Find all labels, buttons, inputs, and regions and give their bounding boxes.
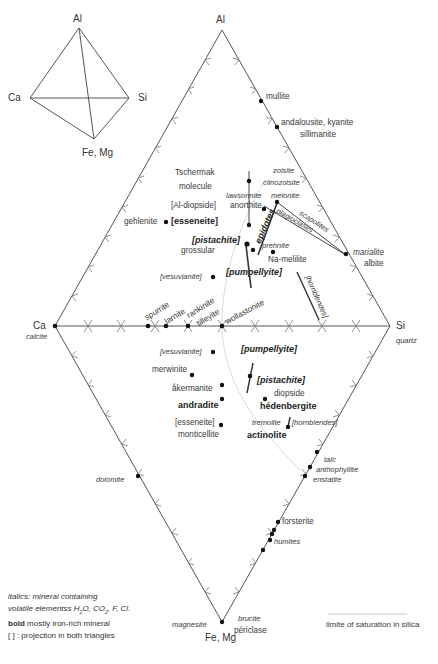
legend-bold-line: bold mostly iron-rich mineral	[8, 618, 130, 630]
label-gehlenite: gehlenite	[124, 218, 157, 226]
label-actinolite: actinolite	[247, 431, 287, 440]
label-diopside: diopside	[274, 390, 305, 398]
label-sillimanite: sillimanite	[300, 131, 336, 139]
label-forsterite: forsterite	[282, 518, 314, 526]
label-brucite: brucite	[238, 615, 261, 623]
vertex-al: Al	[216, 14, 225, 25]
tetrahedron-sketch	[30, 28, 129, 139]
tetra-vertex-ca: Ca	[8, 92, 21, 103]
tetra-vertex-al: Al	[73, 13, 82, 24]
label-andalousite: andalousite, kyanite	[281, 119, 353, 127]
vertex-si-sub: quartz	[396, 337, 417, 345]
label-molecule: molecule	[179, 183, 212, 191]
label-hornblendes-lower: [hornblendes]	[292, 419, 337, 427]
tetra-vertex-femg: Fe, Mg	[82, 147, 113, 158]
label-hedenbergite: hédenbergite	[260, 402, 317, 411]
label-magnesite: magnesite	[172, 621, 207, 629]
label-esseneite-lower: [esseneite]	[175, 419, 215, 427]
label-dolomite: dolomite	[96, 476, 124, 484]
label-tschermak: Tschermak	[175, 169, 215, 177]
label-anthophyllite: anthophyllite	[316, 466, 358, 474]
tie-lines	[246, 171, 407, 614]
label-clinozoisite: clinozoisite	[263, 179, 300, 187]
label-albite: albite	[364, 260, 384, 268]
legend-volatile-mid: O, CO	[82, 604, 105, 613]
label-meionite: meionite	[271, 192, 299, 200]
label-pistachite-lower: [pistachite]	[257, 376, 305, 385]
diagram-lines	[0, 0, 438, 664]
vertex-femg: Fe, Mg	[205, 632, 236, 643]
label-monticellite: monticellite	[178, 431, 219, 439]
mineral-composition-diagram: Al Ca Si Fe, Mg Al Ca calcite Si quartz …	[0, 0, 438, 664]
label-enstatite: enstatite	[313, 476, 341, 484]
label-grossular: grossular	[181, 247, 215, 255]
label-merwinite: merwinite	[152, 366, 187, 374]
legend-volatile-text: volatile elementss H	[8, 604, 80, 613]
label-na-melilite: Na-melilite	[268, 256, 307, 264]
label-humites: humites	[274, 538, 300, 546]
vertex-ca-sub: calcite	[26, 333, 47, 341]
vertex-ca: Ca	[33, 320, 46, 331]
legend-volatile-post: , F, Cl.	[108, 604, 131, 613]
legend-brackets-line: [ ] : projection in both triangles	[8, 630, 130, 642]
tetra-vertex-si: Si	[138, 92, 147, 103]
legend-italics-line: italics: mineral containing	[8, 591, 130, 603]
label-periclase: périclase	[234, 627, 267, 635]
label-anorthite: anorthite	[230, 202, 262, 210]
label-prehnite: prehnite	[262, 242, 289, 250]
label-lawsonnite: lawsonnite	[226, 192, 261, 200]
label-pumpellyite-upper: [pumpellyite]	[226, 268, 282, 277]
legend-saturation-label: limite of saturation in silica	[326, 621, 419, 629]
label-vesuvianite-upper: [vesuvianite]	[160, 273, 202, 281]
label-akermanite: åkermanite	[172, 385, 213, 393]
legend-volatile-line: volatile elementss H2O, CO2, F, Cl.	[8, 603, 130, 618]
label-vesuvianite-lower: [vesuvianite]	[160, 348, 202, 356]
label-pumpellyite-lower: [pumpellyite]	[241, 345, 297, 354]
legend: italics: mineral containing volatile ele…	[8, 591, 130, 642]
label-esseneite-upper: [esseneite]	[171, 217, 218, 226]
label-tremolite: tremolite	[252, 419, 281, 427]
label-zoisite: zoisite	[273, 167, 294, 175]
vertex-si: Si	[396, 320, 405, 331]
legend-bold-rest: mostly iron-rich mineral	[25, 619, 110, 628]
legend-bold-word: bold	[8, 619, 25, 628]
label-andradite: andradite	[178, 401, 219, 410]
label-marialite: marialite	[353, 249, 384, 257]
label-talc: talc	[324, 456, 336, 464]
label-mullite: mullite	[266, 93, 290, 101]
label-pistachite-upper: [pistachite]	[192, 236, 240, 245]
label-al-diopside: [Al-diopside]	[171, 202, 216, 210]
